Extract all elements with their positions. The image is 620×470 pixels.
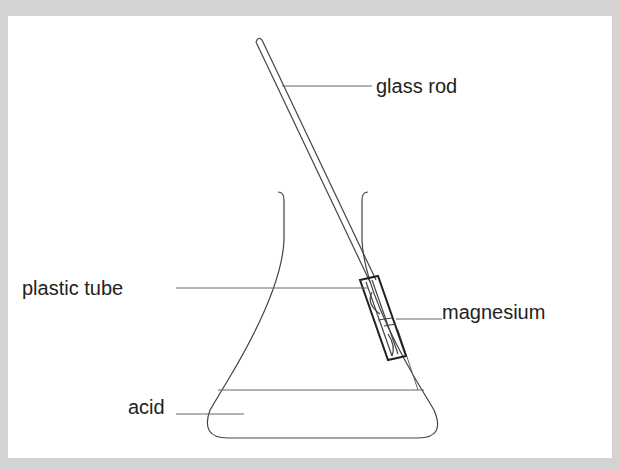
conical-flask xyxy=(207,192,437,438)
label-glass-rod: glass rod xyxy=(376,75,457,97)
label-magnesium: magnesium xyxy=(442,301,545,323)
apparatus-diagram: glass rod plastic tube magnesium acid xyxy=(0,0,620,470)
plastic-tube xyxy=(360,276,406,360)
label-acid: acid xyxy=(128,396,165,418)
label-plastic-tube: plastic tube xyxy=(22,277,123,299)
